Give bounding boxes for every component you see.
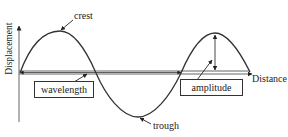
wavelength-label: wavelength bbox=[41, 84, 87, 95]
wave-diagram bbox=[0, 0, 288, 137]
amplitude-pointer bbox=[197, 60, 212, 80]
x-axis-label: Distance bbox=[252, 74, 287, 84]
wavelength-box: wavelength bbox=[34, 81, 94, 98]
amplitude-label: amplitude bbox=[192, 82, 232, 93]
trough-pointer bbox=[140, 118, 151, 124]
crest-pointer bbox=[61, 20, 73, 30]
y-axis-label: Displacement bbox=[5, 23, 15, 75]
trough-label: trough bbox=[153, 121, 179, 131]
amplitude-box: amplitude bbox=[180, 79, 243, 96]
crest-label: crest bbox=[74, 11, 93, 21]
